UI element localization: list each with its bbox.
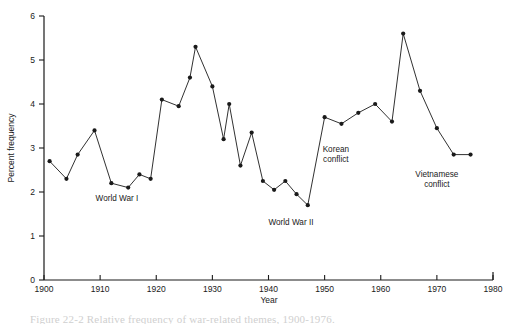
data-point-markers [48,31,473,207]
x-tick-label-1950: 1950 [315,284,334,294]
y-tick-label-2: 2 [30,187,35,197]
data-point [210,84,214,88]
x-tick-label-1960: 1960 [371,284,390,294]
x-tick-label-1980: 1980 [484,284,503,294]
data-point [76,153,80,157]
data-point [452,153,456,157]
data-point [126,186,130,190]
data-point [323,115,327,119]
y-tick-label-3: 3 [30,143,35,153]
data-point [250,131,254,135]
y-tick-label-6: 6 [30,11,35,21]
y-tick-label-1: 1 [30,231,35,241]
x-axis-ticks [44,275,493,280]
annotation-world-war-i: World War I [96,194,139,203]
data-point [339,122,343,126]
x-tick-label-1930: 1930 [203,284,222,294]
y-axis-title: Percent frequency [6,113,16,183]
data-point [418,89,422,93]
x-axis-title: Year [260,295,277,305]
y-axis-tick-labels: 0123456 [30,11,35,285]
figure-container: 0123456 19001910192019301940195019601970… [0,0,510,324]
data-point [306,203,310,207]
y-axis-ticks [39,16,44,280]
data-point [227,102,231,106]
chart-annotations: World War IWorld War IIKoreanconflictVie… [96,145,459,227]
figure-caption-strip: Figure 22-2 Relative frequency of war-re… [0,313,510,324]
data-point [435,126,439,130]
line-chart: 0123456 19001910192019301940195019601970… [0,0,510,324]
x-tick-label-1940: 1940 [259,284,278,294]
data-point [238,164,242,168]
data-point [188,76,192,80]
y-tick-label-4: 4 [30,99,35,109]
data-point [294,192,298,196]
data-point [160,98,164,102]
x-tick-label-1970: 1970 [427,284,446,294]
data-point [137,172,141,176]
data-point [283,179,287,183]
y-tick-label-5: 5 [30,55,35,65]
data-point [92,128,96,132]
data-point [373,102,377,106]
data-point [222,137,226,141]
data-point [272,188,276,192]
x-tick-label-1920: 1920 [147,284,166,294]
data-point [401,31,405,35]
data-point [64,177,68,181]
annotation-world-war-ii: World War II [268,218,313,227]
axes-group [44,16,493,280]
annotation-vietnamese-conflict: Vietnameseconflict [415,170,459,189]
data-series-line [50,34,471,206]
figure-caption: Figure 22-2 Relative frequency of war-re… [30,313,335,324]
x-axis-tick-labels: 190019101920193019401950196019701980 [35,284,503,294]
data-point [261,179,265,183]
data-point [193,45,197,49]
data-point [177,104,181,108]
data-point [149,177,153,181]
data-point [109,181,113,185]
annotation-korean-conflict: Koreanconflict [323,145,350,164]
data-point [48,159,52,163]
data-point [468,153,472,157]
data-point [390,120,394,124]
x-tick-label-1910: 1910 [91,284,110,294]
data-point [356,111,360,115]
x-tick-label-1900: 1900 [35,284,54,294]
